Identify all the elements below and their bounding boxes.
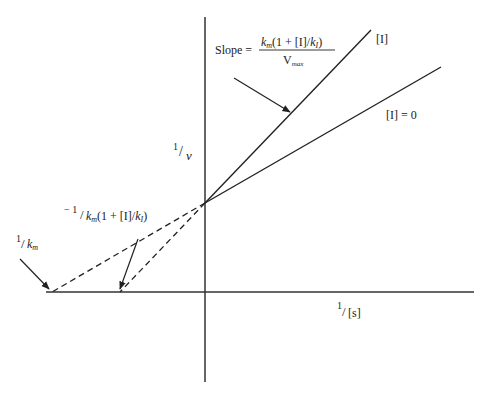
y-axis-label: 1 / v <box>173 141 192 163</box>
line-uninhibited-label: [I] = 0 <box>386 108 417 122</box>
svg-text:/: / <box>80 207 84 222</box>
svg-text:v: v <box>186 148 192 163</box>
svg-text:Vmax: Vmax <box>283 53 304 68</box>
line-inhibited-label: [I] <box>376 32 388 46</box>
arrow-intercept-inhibited <box>120 239 138 289</box>
arrow-slope <box>234 78 290 112</box>
svg-text:/: / <box>21 236 25 251</box>
intercept-uninhibited-label: 1 / km <box>16 233 38 252</box>
svg-text:/: / <box>342 304 346 319</box>
svg-text:/: / <box>179 144 183 159</box>
line-uninhibited <box>205 67 441 203</box>
x-axis-label: 1 / [s] <box>337 300 361 320</box>
svg-text:1: 1 <box>173 141 178 152</box>
svg-text:− 1: − 1 <box>64 204 77 215</box>
intercept-inhibited-label: − 1 / km(1 + [I]/kI) <box>64 204 147 224</box>
svg-text:Slope =: Slope = <box>215 43 252 57</box>
slope-annotation: Slope = km(1 + [I]/kI) Vmax <box>215 35 335 68</box>
svg-text:[s]: [s] <box>348 306 361 320</box>
svg-text:km(1 + [I]/kI): km(1 + [I]/kI) <box>261 35 322 50</box>
svg-text:km(1 + [I]/kI): km(1 + [I]/kI) <box>86 209 147 224</box>
arrow-intercept-uninhibited <box>20 259 49 289</box>
svg-text:km: km <box>27 237 38 252</box>
lineweaver-burk-diagram: 1 / v 1 / [s] [I] [I] = 0 Slope = km(1 +… <box>0 0 488 396</box>
